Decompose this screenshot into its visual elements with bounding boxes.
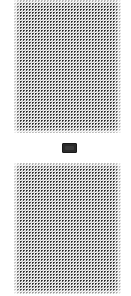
halftone-pattern-bottom <box>14 163 121 294</box>
separator-chip[interactable] <box>62 143 77 153</box>
separator-chip-inner <box>65 146 74 150</box>
halftone-pattern-top <box>14 0 121 133</box>
page-canvas <box>0 0 131 296</box>
